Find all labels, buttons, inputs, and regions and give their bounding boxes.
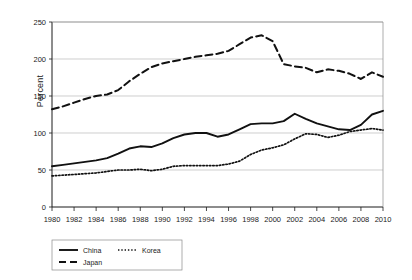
x-tick-label: 1992 — [176, 215, 193, 224]
x-tick-label: 1994 — [198, 215, 215, 224]
legend-group: ChinaKoreaJapan — [52, 240, 182, 270]
y-tick-label: 250 — [33, 18, 46, 27]
x-tick-label: 2010 — [375, 215, 392, 224]
x-tick-label: 2006 — [331, 215, 348, 224]
line-chart-plot: 050100150200250 198019821984198619881990… — [0, 0, 412, 280]
x-tick-label: 1986 — [110, 215, 127, 224]
y-tick-label: 50 — [38, 166, 46, 175]
x-tick-label: 1990 — [154, 215, 171, 224]
data-series-group — [52, 35, 383, 176]
x-axis-ticks-group: 1980198219841986198819901992199419961998… — [44, 207, 392, 224]
y-axis-ticks-group: 050100150200250 — [33, 18, 52, 212]
legend-box — [52, 240, 182, 270]
x-tick-label: 1984 — [88, 215, 105, 224]
legend-label-japan: Japan — [83, 259, 102, 267]
x-tick-label: 2004 — [308, 215, 325, 224]
series-line-japan — [52, 35, 383, 109]
x-tick-label: 1982 — [66, 215, 83, 224]
legend-label-china: China — [83, 247, 101, 254]
x-tick-label: 1980 — [44, 215, 61, 224]
x-tick-label: 2008 — [353, 215, 370, 224]
y-tick-label: 0 — [42, 203, 46, 212]
x-tick-label: 2000 — [264, 215, 281, 224]
x-tick-label: 2002 — [286, 215, 303, 224]
legend-label-korea: Korea — [142, 247, 161, 254]
x-tick-label: 1998 — [242, 215, 259, 224]
x-tick-label: 1988 — [132, 215, 149, 224]
y-tick-label: 100 — [33, 129, 46, 138]
series-line-china — [52, 111, 383, 167]
x-tick-label: 1996 — [220, 215, 237, 224]
series-line-korea — [52, 129, 383, 176]
y-tick-label: 150 — [33, 92, 46, 101]
chart-container: Percent 050100150200250 1980198219841986… — [0, 0, 412, 280]
y-tick-label: 200 — [33, 55, 46, 64]
axes-group — [52, 22, 383, 207]
